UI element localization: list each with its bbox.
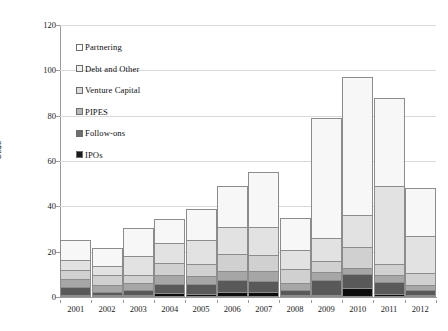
- bar-stack-2002[interactable]: [92, 248, 123, 297]
- bar-stack-2003[interactable]: [123, 228, 154, 297]
- bar-stack-2004[interactable]: [154, 219, 185, 297]
- bar-segment-partnering: [374, 98, 405, 186]
- x-tick-mark: [91, 300, 92, 303]
- bar-segment-partnering: [92, 248, 123, 266]
- y-tick-label: 80: [48, 111, 57, 121]
- bar-segment-partnering: [405, 188, 436, 236]
- x-tick-mark: [279, 300, 280, 303]
- bar-segment-pipes: [248, 271, 279, 281]
- y-tick-mark: [56, 70, 60, 71]
- bar-segment-ipos: [280, 295, 311, 297]
- legend-item-ipos[interactable]: IPOs: [76, 146, 140, 164]
- x-tick-mark: [123, 300, 124, 303]
- y-tick-mark: [56, 206, 60, 207]
- bar-stack-2008[interactable]: [280, 218, 311, 297]
- bar-segment-debt-and-other: [342, 215, 373, 247]
- x-tick-label-2012: 2012: [400, 304, 440, 314]
- bar-segment-debt-and-other: [92, 266, 123, 275]
- bar-segment-debt-and-other: [311, 238, 342, 261]
- bar-segment-partnering: [186, 209, 217, 241]
- stacked-bar-chart: 020406080100120 US$b 2001200220032004200…: [0, 0, 448, 331]
- y-axis-title: US$b: [0, 140, 3, 159]
- bar-segment-ipos: [248, 292, 279, 297]
- bar-segment-ipos: [60, 295, 91, 297]
- bar-segment-debt-and-other: [154, 243, 185, 263]
- legend-label: Partnering: [85, 42, 122, 52]
- bar-segment-follow-ons: [248, 281, 279, 291]
- bar-segment-pipes: [374, 275, 405, 282]
- bar-segment-ipos: [92, 295, 123, 297]
- bar-segment-pipes: [60, 279, 91, 287]
- legend-swatch-icon: [76, 130, 83, 137]
- bar-stack-2011[interactable]: [374, 98, 405, 297]
- bar-segment-partnering: [311, 118, 342, 238]
- bar-segment-pipes: [342, 268, 373, 275]
- bar-segment-follow-ons: [342, 274, 373, 288]
- y-tick-mark: [56, 252, 60, 253]
- legend-swatch-icon: [76, 151, 83, 158]
- y-tick-mark: [56, 25, 60, 26]
- x-tick-mark: [248, 300, 249, 303]
- bar-stack-2012[interactable]: [405, 188, 436, 297]
- bar-segment-pipes: [311, 272, 342, 279]
- y-axis-ticks: 020406080100120: [24, 25, 56, 297]
- bar-stack-2005[interactable]: [186, 209, 217, 297]
- bar-segment-partnering: [123, 228, 154, 256]
- x-tick-mark: [373, 300, 374, 303]
- legend-item-venture-capital[interactable]: Venture Capital: [76, 81, 140, 99]
- bar-segment-debt-and-other: [374, 186, 405, 264]
- bar-segment-venture-capital: [311, 261, 342, 272]
- x-tick-mark: [342, 300, 343, 303]
- y-tick-label: 40: [48, 201, 57, 211]
- bar-segment-partnering: [154, 219, 185, 243]
- bar-stack-2007[interactable]: [248, 172, 279, 297]
- bar-segment-ipos: [405, 295, 436, 297]
- legend-item-pipes[interactable]: PIPES: [76, 103, 140, 121]
- x-tick-mark: [405, 300, 406, 303]
- bar-segment-debt-and-other: [248, 227, 279, 256]
- bar-segment-follow-ons: [311, 280, 342, 295]
- y-tick-label: 20: [48, 247, 57, 257]
- legend-label: Venture Capital: [85, 85, 140, 95]
- bar-stack-2006[interactable]: [217, 186, 248, 297]
- bar-segment-debt-and-other: [280, 250, 311, 269]
- x-tick-mark: [311, 300, 312, 303]
- bar-segment-ipos: [342, 288, 373, 297]
- legend-label: Debt and Other: [85, 64, 139, 74]
- bar-segment-debt-and-other: [60, 260, 91, 270]
- bar-stack-2010[interactable]: [342, 77, 373, 297]
- bar-stack-2001[interactable]: [60, 240, 91, 297]
- bar-segment-partnering: [248, 172, 279, 226]
- bar-segment-debt-and-other: [217, 227, 248, 254]
- x-tick-mark: [217, 300, 218, 303]
- bar-segment-venture-capital: [123, 275, 154, 284]
- bar-segment-debt-and-other: [186, 240, 217, 263]
- legend-swatch-icon: [76, 108, 83, 115]
- y-tick-mark: [56, 116, 60, 117]
- legend-item-partnering[interactable]: Partnering: [76, 38, 140, 56]
- bar-segment-partnering: [280, 218, 311, 250]
- legend-label: IPOs: [85, 150, 103, 160]
- x-tick-mark: [436, 300, 437, 303]
- legend-item-follow-ons[interactable]: Follow-ons: [76, 124, 140, 142]
- bar-segment-venture-capital: [342, 247, 373, 267]
- bar-segment-follow-ons: [374, 282, 405, 294]
- bar-segment-venture-capital: [374, 264, 405, 275]
- bar-segment-pipes: [217, 271, 248, 280]
- bar-segment-partnering: [60, 240, 91, 259]
- bar-segment-venture-capital: [280, 269, 311, 283]
- bar-segment-pipes: [154, 275, 185, 284]
- bar-stack-2009[interactable]: [311, 118, 342, 297]
- bar-segment-follow-ons: [154, 284, 185, 293]
- bar-segment-pipes: [92, 285, 123, 292]
- bar-segment-partnering: [217, 186, 248, 227]
- bar-segment-follow-ons: [217, 280, 248, 292]
- legend-item-debt-and-other[interactable]: Debt and Other: [76, 60, 140, 78]
- bar-segment-partnering: [342, 77, 373, 215]
- bar-segment-pipes: [186, 276, 217, 284]
- bar-segment-venture-capital: [154, 263, 185, 275]
- x-axis-labels: 2001200220032004200520062007200820092010…: [60, 300, 436, 320]
- x-tick-mark: [60, 300, 61, 303]
- bar-segment-debt-and-other: [123, 256, 154, 274]
- y-tick-mark: [56, 297, 60, 298]
